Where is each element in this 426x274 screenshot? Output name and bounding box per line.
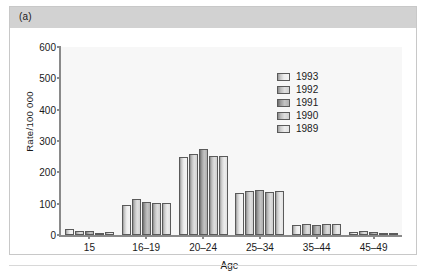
bar-1991-20–24	[199, 149, 208, 235]
legend-item-1993: 1993	[277, 70, 318, 83]
bar-1990-15	[95, 233, 104, 236]
legend-swatch-icon	[277, 86, 290, 94]
bar-1992-16–19	[132, 199, 141, 235]
bar-1992-35–44	[302, 224, 311, 235]
bar-1992-25–34	[245, 191, 254, 235]
x-axis-tick-label: 15	[84, 242, 95, 253]
x-axis-tick-label: 35–44	[303, 242, 331, 253]
bar-1990-16–19	[152, 203, 161, 235]
legend-item-1989: 1989	[277, 122, 318, 135]
legend-label: 1992	[296, 84, 318, 95]
legend-label: 1990	[296, 110, 318, 121]
bar-1989-20–24	[219, 156, 228, 235]
bar-1993-20–24	[179, 157, 188, 235]
bar-1991-35–44	[312, 225, 321, 235]
bar-1989-25–34	[275, 191, 284, 235]
bar-1993-16–19	[122, 205, 131, 235]
bar-1990-25–34	[265, 192, 274, 235]
x-axis-tick-mark	[259, 235, 261, 239]
y-axis-tick-label: 0	[50, 230, 56, 241]
x-axis-tick-label: 20–24	[189, 242, 217, 253]
legend-item-1991: 1991	[277, 96, 318, 109]
legend-label: 1991	[296, 97, 318, 108]
legend-swatch-icon	[277, 73, 290, 81]
bar-1993-45–49	[349, 232, 358, 235]
bar-1991-16–19	[142, 202, 151, 235]
bar-group	[345, 47, 402, 235]
y-axis-tick-label: 300	[39, 136, 56, 147]
footer-divider	[9, 265, 417, 266]
bar-1989-16–19	[162, 203, 171, 235]
y-axis-tick-label: 500	[39, 73, 56, 84]
y-axis-tick-label: 100	[39, 198, 56, 209]
x-axis-tick-mark	[88, 235, 90, 239]
x-axis-tick-label: 45–49	[360, 242, 388, 253]
x-axis-tick-mark	[316, 235, 318, 239]
panel-label: (a)	[19, 11, 32, 22]
bar-group	[118, 47, 175, 235]
bar-1992-15	[75, 231, 84, 235]
bar-1993-35–44	[292, 225, 301, 235]
x-axis-tick-label: 16–19	[132, 242, 160, 253]
y-axis-tick-label: 200	[39, 167, 56, 178]
legend-item-1992: 1992	[277, 83, 318, 96]
legend-swatch-icon	[277, 99, 290, 107]
x-axis-tick-label: 25–34	[246, 242, 274, 253]
bar-group	[61, 47, 118, 235]
y-axis-title: Rate/100 000	[24, 67, 35, 177]
bar-1991-25–34	[255, 190, 264, 235]
bar-group	[175, 47, 232, 235]
bar-1993-15	[65, 229, 74, 235]
plot-area: 01002003004005006001516–1920–2425–3435–4…	[59, 47, 402, 237]
bar-1992-45–49	[359, 231, 368, 235]
bar-1993-25–34	[235, 193, 244, 235]
bar-1990-20–24	[209, 156, 218, 235]
y-axis-tick-label: 400	[39, 104, 56, 115]
figure-panel: (a) Rate/100 000 01002003004005006001516…	[9, 6, 417, 255]
x-axis-tick-mark	[145, 235, 147, 239]
legend-item-1990: 1990	[277, 109, 318, 122]
bar-1989-15	[105, 232, 114, 235]
x-axis-tick-mark	[202, 235, 204, 239]
legend-swatch-icon	[277, 125, 290, 133]
legend-swatch-icon	[277, 112, 290, 120]
x-axis-tick-mark	[373, 235, 375, 239]
legend-label: 1989	[296, 123, 318, 134]
panel-header-band	[10, 7, 416, 28]
chart-legend: 19931992199119901989	[277, 70, 318, 135]
plot-wrapper: Rate/100 000 01002003004005006001516–192…	[10, 28, 416, 254]
bar-1989-45–49	[389, 233, 398, 236]
bar-1990-45–49	[379, 233, 388, 236]
bar-1992-20–24	[189, 154, 198, 235]
legend-label: 1993	[296, 71, 318, 82]
bar-1990-35–44	[322, 224, 331, 235]
bar-1989-35–44	[332, 224, 341, 235]
y-axis-tick-label: 600	[39, 42, 56, 53]
